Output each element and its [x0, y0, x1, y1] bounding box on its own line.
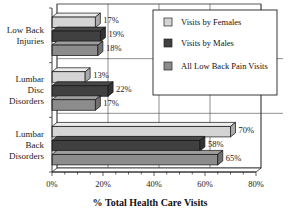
x-tick-label: 0% [46, 179, 57, 189]
plot-floor [52, 168, 261, 172]
category-label-line: Back [26, 140, 45, 150]
bar-top-face [52, 136, 205, 140]
bar-front-face [52, 140, 200, 151]
data-label: 58% [208, 139, 224, 149]
bar [52, 27, 105, 42]
bar-front-face [52, 45, 98, 56]
bar-top-face [52, 82, 113, 86]
bar-top-face [52, 122, 236, 126]
category-label: Low BackInjuries [7, 25, 45, 46]
bar-front-face [52, 72, 85, 83]
bar [52, 122, 236, 137]
bar [52, 41, 103, 56]
data-label: 65% [226, 153, 242, 163]
bar-top-face [52, 150, 223, 154]
data-label: 19% [108, 29, 124, 39]
bar-top-face [52, 68, 90, 72]
legend-swatch [164, 62, 172, 70]
bar-top-face [52, 13, 100, 17]
category-label-line: Disorders [9, 96, 44, 106]
data-label: 17% [103, 98, 119, 108]
x-tick-label: 20% [95, 179, 111, 189]
category-label: LumbarBackDisorders [9, 129, 44, 161]
legend-label: Visits by Females [181, 17, 241, 27]
data-label: 17% [103, 15, 119, 25]
bar [52, 136, 205, 151]
category-label: LumbarDiscDisorders [9, 74, 44, 106]
category-label-line: Lumbar [16, 74, 45, 84]
bar-front-face [52, 126, 231, 136]
data-label: 13% [93, 70, 109, 80]
x-tick-label: 80% [248, 179, 264, 189]
x-tick-label: 40% [146, 179, 162, 189]
bar-front-face [52, 100, 95, 111]
x-axis-title: % Total Health Care Visits [93, 197, 208, 208]
legend-swatch [164, 39, 172, 47]
bar [52, 82, 113, 97]
bar-top-face [52, 27, 105, 31]
bar-chart: 17%19%18%13%22%17%70%58%65% 0%20%40%60%8… [0, 0, 294, 211]
bar [52, 68, 90, 83]
data-label: 70% [239, 125, 255, 135]
bar [52, 150, 223, 165]
category-label-line: Lumbar [16, 129, 45, 139]
bar-front-face [52, 31, 100, 42]
x-tick-labels: 0%20%40%60%80% [46, 179, 263, 189]
legend-swatch [164, 18, 172, 26]
category-labels: Low BackInjuriesLumbarDiscDisordersLumba… [7, 25, 45, 161]
category-label-line: Disorders [9, 151, 44, 161]
legend-label: Visits by Males [181, 38, 234, 48]
bar [52, 13, 100, 28]
bar-front-face [52, 86, 108, 97]
bar [52, 96, 100, 111]
bar-front-face [52, 17, 95, 28]
category-label-line: Injuries [17, 36, 45, 46]
x-tick-label: 60% [197, 179, 213, 189]
bar-top-face [52, 41, 103, 45]
data-label: 22% [116, 84, 132, 94]
legend: Visits by FemalesVisits by MalesAll Low … [153, 10, 277, 95]
bar-top-face [52, 96, 100, 100]
legend-label: All Low Back Pain Visits [181, 61, 268, 71]
category-label-line: Disc [28, 85, 45, 95]
bar-front-face [52, 154, 218, 165]
category-label-line: Low Back [7, 25, 45, 35]
data-label: 18% [106, 43, 122, 53]
